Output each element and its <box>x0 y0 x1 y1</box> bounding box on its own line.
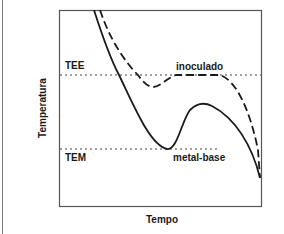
inoculado-label: inoculado <box>176 62 223 72</box>
tem-label: TEM <box>65 153 86 163</box>
metal-base-label: metal-base <box>173 153 225 163</box>
tee-label: TEE <box>65 61 84 71</box>
y-axis-label: Temperatura <box>37 78 48 138</box>
plot-area-frame <box>60 11 262 207</box>
x-axis-label: Tempo <box>146 215 178 225</box>
